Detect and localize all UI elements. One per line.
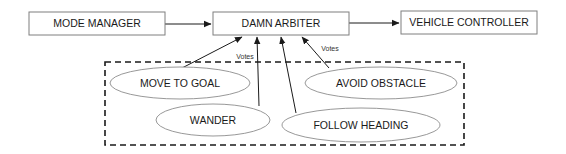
arrow-avoid-obstacle-to-damn-arbiter bbox=[302, 37, 329, 68]
node-label-vehicle-controller: VEHICLE CONTROLLER bbox=[409, 16, 529, 28]
arrow-wander-to-damn-arbiter bbox=[257, 37, 259, 106]
node-label-avoid-obstacle: AVOID OBSTACLE bbox=[336, 77, 426, 89]
arrow-follow-heading-to-damn-arbiter bbox=[281, 37, 296, 113]
node-move-to-goal: MOVE TO GOAL bbox=[110, 67, 250, 99]
node-vehicle-controller: VEHICLE CONTROLLER bbox=[401, 11, 537, 34]
votes-label-left: Votes bbox=[236, 53, 254, 60]
node-damn-arbiter: DAMN ARBITER bbox=[213, 12, 349, 35]
node-follow-heading: FOLLOW HEADING bbox=[282, 108, 440, 142]
node-label-mode-manager: MODE MANAGER bbox=[53, 17, 141, 29]
arrow-move-to-goal-to-damn-arbiter bbox=[182, 37, 242, 68]
node-label-move-to-goal: MOVE TO GOAL bbox=[140, 77, 220, 89]
node-avoid-obstacle: AVOID OBSTACLE bbox=[305, 67, 457, 99]
node-wander: WANDER bbox=[156, 104, 270, 136]
votes-label-right: Votes bbox=[321, 45, 339, 52]
node-mode-manager: MODE MANAGER bbox=[29, 12, 165, 35]
node-label-damn-arbiter: DAMN ARBITER bbox=[242, 17, 321, 29]
damn-architecture-diagram: MODE MANAGER DAMN ARBITER VEHICLE CONTRO… bbox=[0, 0, 566, 154]
node-label-follow-heading: FOLLOW HEADING bbox=[313, 119, 408, 131]
node-label-wander: WANDER bbox=[190, 114, 237, 126]
